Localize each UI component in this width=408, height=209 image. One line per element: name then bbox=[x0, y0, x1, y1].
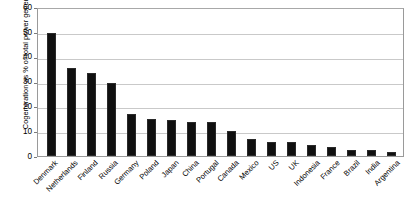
bar[interactable] bbox=[67, 68, 76, 156]
bar[interactable] bbox=[327, 147, 336, 156]
y-tick-label: 0 bbox=[14, 153, 32, 161]
bar-series bbox=[38, 9, 403, 156]
bar-slot bbox=[281, 9, 301, 156]
bar-slot bbox=[301, 9, 321, 156]
bar-slot bbox=[61, 9, 81, 156]
bar-slot bbox=[221, 9, 241, 156]
bar[interactable] bbox=[307, 145, 316, 156]
y-tick-mark bbox=[34, 132, 37, 133]
y-tick-mark bbox=[34, 8, 37, 9]
bar[interactable] bbox=[227, 131, 236, 156]
bar-slot bbox=[181, 9, 201, 156]
y-axis-tick-labels: 6050403020100 bbox=[14, 0, 32, 209]
y-tick-mark bbox=[34, 83, 37, 84]
y-tick-label: 30 bbox=[14, 78, 32, 86]
bar-slot bbox=[321, 9, 341, 156]
bar[interactable] bbox=[107, 83, 116, 156]
bar-slot bbox=[361, 9, 381, 156]
x-axis-tick-labels: DenmarkNetherlandsFinlandRussiaGermanyPo… bbox=[37, 158, 404, 209]
bar[interactable] bbox=[367, 150, 376, 156]
bar-slot bbox=[341, 9, 361, 156]
bar-slot bbox=[81, 9, 101, 156]
y-tick-label: 20 bbox=[14, 103, 32, 111]
bar[interactable] bbox=[47, 33, 56, 156]
bar-slot bbox=[381, 9, 401, 156]
bar[interactable] bbox=[87, 73, 96, 156]
bar[interactable] bbox=[347, 150, 356, 156]
bar-slot bbox=[261, 9, 281, 156]
bar-slot bbox=[141, 9, 161, 156]
cogeneration-bar-chart: Cogeneration as % of total power generat… bbox=[0, 0, 408, 209]
bar-slot bbox=[241, 9, 261, 156]
y-tick-mark bbox=[34, 107, 37, 108]
y-tick-mark bbox=[34, 157, 37, 158]
bar[interactable] bbox=[207, 122, 216, 156]
y-tick-mark bbox=[34, 33, 37, 34]
bar-slot bbox=[121, 9, 141, 156]
plot-area bbox=[37, 8, 404, 157]
y-tick-label: 10 bbox=[14, 128, 32, 136]
bar-slot bbox=[161, 9, 181, 156]
y-tick-label: 50 bbox=[14, 29, 32, 37]
bar-slot bbox=[201, 9, 221, 156]
bar[interactable] bbox=[187, 122, 196, 156]
bar[interactable] bbox=[387, 152, 396, 156]
bar[interactable] bbox=[287, 142, 296, 156]
chart-title-cropped bbox=[96, 0, 316, 3]
bar-slot bbox=[41, 9, 61, 156]
bar[interactable] bbox=[127, 114, 136, 156]
bar[interactable] bbox=[267, 142, 276, 156]
bar[interactable] bbox=[167, 120, 176, 156]
bar[interactable] bbox=[147, 119, 156, 156]
y-tick-label: 40 bbox=[14, 53, 32, 61]
bar[interactable] bbox=[247, 139, 256, 156]
y-tick-mark bbox=[34, 58, 37, 59]
bar-slot bbox=[101, 9, 121, 156]
y-tick-label: 60 bbox=[14, 4, 32, 12]
